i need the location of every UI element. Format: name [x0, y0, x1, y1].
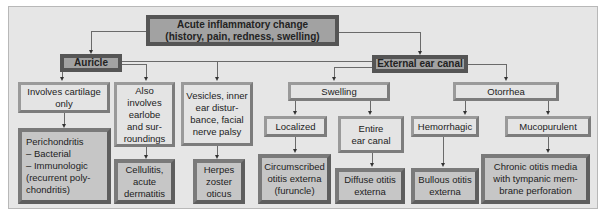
perichondritis-node: Perichondritis – Bacterial – Immunologic…	[18, 128, 111, 204]
hemorrhagic-node: Hemorrhagic	[411, 116, 479, 137]
localized-node: Localized	[264, 116, 327, 137]
diffuse-otitis-node: Diffuse otitis externa	[335, 168, 405, 204]
arrow-icon	[546, 111, 550, 115]
root-node: Acute inflammatory change (history, pain…	[146, 15, 339, 46]
connector	[217, 61, 218, 78]
earlobe-surroundings-node: Also involves earlobe and sur- roundings	[114, 82, 175, 147]
connector	[372, 152, 373, 163]
cellulitis-node: Cellulitis, acute dermatitis	[114, 159, 175, 204]
connector	[420, 32, 421, 51]
arrow-icon	[332, 77, 336, 81]
otorrhea-node: Otorrhea	[453, 82, 559, 101]
arrow-icon	[60, 77, 64, 81]
arrow-icon	[144, 77, 148, 81]
mucopurulent-node: Mucopurulent	[505, 116, 591, 137]
arrow-icon	[546, 149, 550, 153]
connector	[548, 136, 549, 149]
bullous-otitis-node: Bullous otitis externa	[411, 168, 479, 204]
connector	[295, 136, 296, 149]
arrow-icon	[370, 163, 374, 167]
swelling-node: Swelling	[288, 82, 390, 101]
connector	[146, 64, 147, 78]
arrow-icon	[215, 77, 219, 81]
arrow-icon	[463, 111, 467, 115]
arrow-icon	[368, 111, 372, 115]
connector	[338, 32, 421, 33]
arrow-icon	[441, 163, 445, 167]
connector	[506, 64, 507, 78]
connector	[91, 31, 92, 50]
connector	[467, 64, 507, 65]
circumscribed-otitis-node: Circumscribed otitis externa (furuncle)	[258, 154, 331, 204]
connector	[91, 31, 147, 32]
arrow-icon	[293, 149, 297, 153]
connector	[121, 61, 373, 62]
connector	[121, 64, 146, 65]
entire-ear-canal-node: Entire ear canal	[338, 116, 404, 153]
connector	[64, 112, 65, 124]
vesicles-node: Vesicles, inner ear distur- bance, facia…	[181, 82, 253, 146]
herpes-zoster-node: Herpes zoster oticus	[193, 159, 245, 204]
external-ear-canal-node: External ear canal	[372, 55, 468, 73]
connector	[334, 67, 373, 68]
auricle-node: Auricle	[60, 54, 122, 72]
cartilage-only-node: Involves cartilage only	[18, 82, 110, 113]
arrow-icon	[293, 111, 297, 115]
chronic-otitis-media-node: Chronic otitis media with tympanic mem- …	[481, 154, 590, 204]
arrow-icon	[504, 77, 508, 81]
connector	[443, 136, 444, 163]
